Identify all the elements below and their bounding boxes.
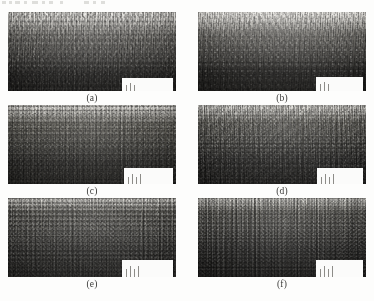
scale-bar-tick — [130, 83, 131, 91]
panel-label-b: (b) — [198, 93, 366, 103]
scale-bar-tick — [332, 266, 333, 277]
scale-bar-notch-a — [122, 78, 172, 91]
scale-bar-tick — [324, 266, 325, 277]
scale-bar-tick — [134, 269, 135, 277]
scale-bar-ticks — [122, 260, 172, 277]
scale-bar-tick — [126, 269, 127, 277]
scale-bar-tick — [328, 84, 329, 91]
scale-bar-tick — [128, 177, 129, 184]
scale-bar-ticks — [317, 168, 362, 184]
scale-bar-ticks — [122, 78, 172, 91]
scale-bar-tick — [132, 174, 133, 184]
scale-bar-tick — [140, 174, 141, 184]
panel-e — [8, 198, 176, 277]
scale-bar-notch-d — [317, 168, 362, 184]
panel-grid: (a)(b)(c)(d)(e)(f) — [0, 0, 374, 301]
scale-bar-ticks — [124, 168, 173, 184]
scale-bar-notch-b — [316, 77, 363, 91]
panel-f — [198, 198, 366, 277]
panel-label-c: (c) — [8, 186, 176, 196]
micrograph-image-a — [8, 12, 176, 91]
micrograph-image-c — [8, 105, 176, 184]
panel-label-e: (e) — [8, 279, 176, 289]
panel-a — [8, 12, 176, 91]
scale-bar-tick — [138, 266, 139, 277]
scale-bar-ticks — [316, 77, 363, 91]
scale-bar-notch-f — [316, 260, 363, 277]
panel-d — [198, 105, 366, 184]
panel-label-a: (a) — [8, 93, 176, 103]
scale-bar-tick — [136, 177, 137, 184]
micrograph-image-b — [198, 12, 366, 91]
scale-bar-tick — [328, 269, 329, 277]
scale-bar-tick — [324, 82, 325, 91]
scale-bar-tick — [130, 266, 131, 277]
micrograph-image-f — [198, 198, 366, 277]
scale-bar-tick — [325, 174, 326, 184]
panel-label-d: (d) — [198, 186, 366, 196]
scale-bar-tick — [320, 269, 321, 277]
scale-bar-tick — [333, 174, 334, 184]
micrograph-image-d — [198, 105, 366, 184]
scale-bar-notch-e — [122, 260, 172, 277]
scale-bar-notch-c — [124, 168, 173, 184]
scale-bar-tick — [320, 84, 321, 91]
scale-bar-tick — [134, 85, 135, 91]
figure-root: (a)(b)(c)(d)(e)(f) — [0, 0, 374, 301]
scale-bar-tick — [321, 177, 322, 184]
scale-bar-ticks — [316, 260, 363, 277]
scale-bar-tick — [126, 85, 127, 91]
panel-c — [8, 105, 176, 184]
micrograph-image-e — [8, 198, 176, 277]
panel-label-f: (f) — [198, 279, 366, 289]
panel-b — [198, 12, 366, 91]
scale-bar-tick — [329, 177, 330, 184]
